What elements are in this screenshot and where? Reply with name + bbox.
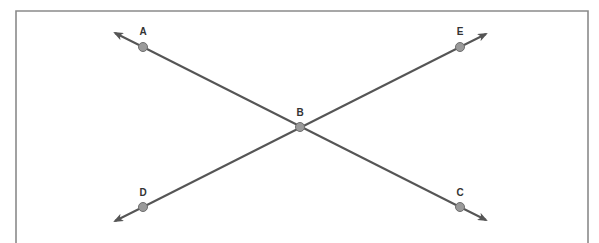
label-C: C (456, 187, 463, 198)
point-B (296, 123, 305, 132)
point-D (139, 203, 148, 212)
label-B: B (296, 107, 303, 118)
point-A (139, 43, 148, 52)
label-D: D (139, 187, 146, 198)
label-E: E (457, 26, 464, 37)
intersecting-lines-diagram: A B C D E (0, 0, 599, 243)
point-E (456, 43, 465, 52)
label-A: A (139, 26, 146, 37)
point-C (456, 203, 465, 212)
